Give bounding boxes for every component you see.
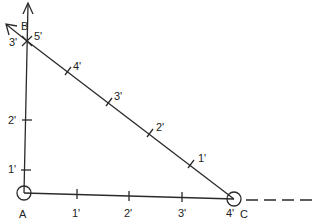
diagonal-label-3: 3' xyxy=(114,90,122,102)
horizontal-label-1: 1' xyxy=(72,207,80,219)
point-c-label: C xyxy=(240,208,248,220)
horizontal-label-3: 3' xyxy=(178,207,186,219)
vertical-label-1: 1' xyxy=(8,163,16,175)
hypotenuse-bc xyxy=(27,41,234,199)
horizontal-label-4: 4' xyxy=(226,207,234,219)
point-a-label: A xyxy=(19,208,27,220)
diagonal-label-5: 5' xyxy=(34,30,42,42)
vertical-side-ab xyxy=(24,4,28,193)
vertical-label-3: 3' xyxy=(9,36,17,48)
point-b-label: B xyxy=(21,20,28,32)
diagonal-label-2: 2' xyxy=(156,121,164,133)
horizontal-label-2: 2' xyxy=(124,207,132,219)
diagonal-label-4: 4' xyxy=(73,60,81,72)
triangle-diagram: 1' 2' 3' 1' 2' 3' 4' 1' 2' 3' 4' 5' A B … xyxy=(0,0,316,221)
vertical-label-2: 2' xyxy=(8,114,16,126)
diagonal-label-1: 1' xyxy=(198,152,206,164)
